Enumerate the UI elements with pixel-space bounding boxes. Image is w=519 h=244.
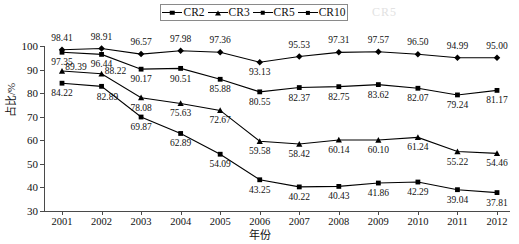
legend-item-cr10[interactable]: CR10 xyxy=(298,7,346,19)
x-axis-label: 年份 xyxy=(0,226,519,242)
y-axis-tick xyxy=(40,46,44,47)
data-point-marker xyxy=(297,85,302,90)
data-point-marker xyxy=(256,59,263,66)
data-point-label: 75.63 xyxy=(170,108,191,118)
data-point-label: 41.86 xyxy=(368,188,389,198)
data-point-label: 93.13 xyxy=(249,67,270,77)
data-point-label: 62.89 xyxy=(170,138,191,148)
plot-area: 3040506070809010020012002200320042005200… xyxy=(44,46,509,211)
data-point-label: 40.22 xyxy=(289,192,310,202)
data-point-marker xyxy=(99,84,104,89)
data-point-label: 69.87 xyxy=(130,122,151,132)
legend-item-label: CR5 xyxy=(274,7,295,19)
data-point-marker xyxy=(415,51,422,58)
diamond-marker-icon xyxy=(298,8,318,18)
data-point-marker xyxy=(99,52,104,57)
x-axis-tick xyxy=(299,211,300,215)
y-axis-tick xyxy=(40,164,44,165)
data-point-label: 80.55 xyxy=(249,97,270,107)
data-point-marker xyxy=(257,177,262,182)
data-point-label: 79.24 xyxy=(447,100,468,110)
data-point-label: 55.22 xyxy=(447,157,468,167)
data-point-label: 54.46 xyxy=(486,158,507,168)
data-point-marker xyxy=(139,115,144,120)
data-point-label: 60.14 xyxy=(328,145,349,155)
data-point-marker xyxy=(495,88,500,93)
data-point-marker xyxy=(376,181,381,186)
data-point-label: 82.37 xyxy=(289,93,310,103)
y-axis-tick-label: 100 xyxy=(22,40,39,52)
data-point-marker xyxy=(217,49,224,56)
data-point-marker xyxy=(138,51,145,58)
data-point-label: 40.43 xyxy=(328,191,349,201)
legend-item-label: CR10 xyxy=(319,7,346,19)
data-point-label: 39.04 xyxy=(447,195,468,205)
data-point-marker xyxy=(416,180,421,185)
data-point-label: 54.09 xyxy=(209,159,230,169)
data-point-label: 95.00 xyxy=(486,41,507,51)
x-axis-tick xyxy=(141,211,142,215)
data-point-marker xyxy=(455,187,460,192)
data-point-label: 58.42 xyxy=(289,149,310,159)
data-point-label: 43.25 xyxy=(249,185,270,195)
data-point-marker xyxy=(336,49,343,56)
data-point-marker xyxy=(218,152,223,157)
y-axis-label: 占比/% xyxy=(2,83,18,117)
x-axis-tick xyxy=(62,211,63,215)
data-point-label: 84.22 xyxy=(51,88,72,98)
data-point-label: 37.81 xyxy=(486,198,507,208)
data-point-label: 72.67 xyxy=(209,115,230,125)
legend-item-cr5[interactable]: CR5 xyxy=(253,7,295,19)
data-point-label: 82.07 xyxy=(407,93,428,103)
data-point-label: 90.51 xyxy=(170,74,191,84)
legend-item-cr2[interactable]: CR2 xyxy=(162,7,204,19)
data-point-marker xyxy=(455,93,460,98)
data-point-marker xyxy=(336,184,341,189)
data-point-marker xyxy=(296,53,303,60)
legend-item-label: CR2 xyxy=(183,7,204,19)
data-point-marker xyxy=(139,67,144,72)
data-point-label: 83.62 xyxy=(368,90,389,100)
y-axis-tick xyxy=(40,140,44,141)
y-axis-tick xyxy=(40,117,44,118)
triangle-marker-icon xyxy=(208,8,228,18)
data-point-label: 97.98 xyxy=(170,34,191,44)
y-axis-tick xyxy=(40,211,44,212)
chart-legend: CR2CR3CR5CR10 xyxy=(160,4,348,21)
data-point-marker xyxy=(177,48,184,55)
legend-item-label: CR3 xyxy=(229,7,250,19)
x-axis-tick xyxy=(339,211,340,215)
x-axis-tick xyxy=(457,211,458,215)
data-point-label: 60.10 xyxy=(368,145,389,155)
data-point-marker xyxy=(178,66,183,71)
data-point-label: 96.57 xyxy=(130,37,151,47)
series-line-cr10 xyxy=(62,49,497,63)
data-point-label: 85.88 xyxy=(209,84,230,94)
y-axis-tick-label: 80 xyxy=(27,87,38,99)
x-axis-tick xyxy=(181,211,182,215)
data-point-label: 97.36 xyxy=(209,35,230,45)
legend-item-cr3[interactable]: CR3 xyxy=(208,7,250,19)
line-chart: CR2CR3CR5CR10 CR5 占比/% 30405060708090100… xyxy=(0,0,519,244)
data-point-marker xyxy=(376,82,381,87)
data-point-label: 96.44 xyxy=(91,59,112,69)
data-point-label: 82.75 xyxy=(328,92,349,102)
y-axis-tick-label: 50 xyxy=(27,158,38,170)
data-point-label: 78.08 xyxy=(130,103,151,113)
data-point-label: 98.41 xyxy=(51,33,72,43)
square-marker-icon xyxy=(162,8,182,18)
data-point-label: 82.89 xyxy=(97,92,118,102)
series-line-cr3 xyxy=(62,71,497,153)
y-axis-tick-label: 30 xyxy=(27,205,38,217)
x-axis-tick xyxy=(260,211,261,215)
data-point-marker xyxy=(257,89,262,94)
data-point-label: 97.31 xyxy=(328,35,349,45)
x-axis-tick xyxy=(378,211,379,215)
y-axis-tick xyxy=(40,93,44,94)
series-line-cr2 xyxy=(62,83,497,192)
data-point-label: 98.91 xyxy=(91,32,112,42)
x-axis-tick xyxy=(220,211,221,215)
data-point-marker xyxy=(60,81,65,86)
data-point-label: 90.17 xyxy=(130,74,151,84)
data-point-marker xyxy=(336,84,341,89)
